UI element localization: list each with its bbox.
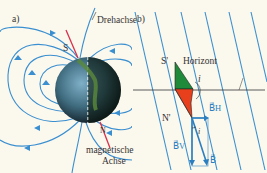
angle-label-2: i	[198, 128, 200, 136]
magnetic-axis-label-2: Achse	[102, 157, 126, 167]
panel-b-inclination: b) S' Horizont i N' B⃗H i B⃗V B⃗	[133, 0, 267, 173]
rotation-axis-label: Drehachse	[97, 16, 137, 26]
figure: a) Drehachse S N magnetische Achse	[0, 0, 267, 173]
panel-a-earth-field: a) Drehachse S N magnetische Achse	[0, 0, 132, 173]
magnetic-axis-label-1: magnetische	[86, 146, 133, 156]
needle-s-label: S'	[161, 57, 168, 67]
inclination-diagram	[133, 0, 267, 173]
vector-bh-label: B⃗H	[209, 104, 221, 113]
angle-label: i	[198, 75, 201, 85]
vector-bv-label: B⃗V	[173, 142, 185, 151]
panel-b-label: b)	[137, 15, 145, 25]
vector-b-label: B⃗	[210, 156, 216, 165]
pole-n-label: N	[100, 127, 106, 135]
needle-n-label: N'	[162, 114, 171, 124]
panel-a-label: a)	[12, 15, 19, 25]
horizon-label: Horizont	[183, 57, 217, 67]
pole-s-label: S	[63, 44, 68, 54]
